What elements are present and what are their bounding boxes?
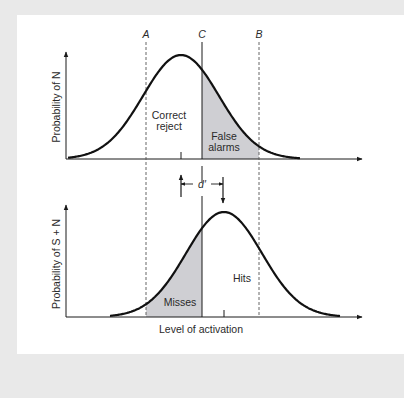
signal-noise-distribution-curve: [110, 212, 340, 316]
misses-label: Misses: [164, 296, 197, 308]
correct-reject-label-line2: reject: [156, 120, 182, 132]
x-axis-label: Level of activation: [159, 323, 243, 335]
d-prime-label: d′: [198, 178, 207, 190]
top-y-axis-label: Probability of N: [50, 71, 62, 142]
bottom-y-axis-label: Probability of S + N: [50, 219, 62, 309]
signal-detection-figure: A C B Probability of N Probability of S …: [0, 0, 404, 398]
cutoff-label-a: A: [141, 28, 149, 40]
bottom-axes: [66, 205, 362, 317]
false-alarms-label-line2: alarms: [208, 141, 240, 153]
cutoff-label-b: B: [255, 28, 262, 40]
noise-distribution-curve: [68, 55, 300, 158]
cutoff-label-c: C: [198, 28, 206, 40]
hits-label: Hits: [233, 272, 251, 284]
